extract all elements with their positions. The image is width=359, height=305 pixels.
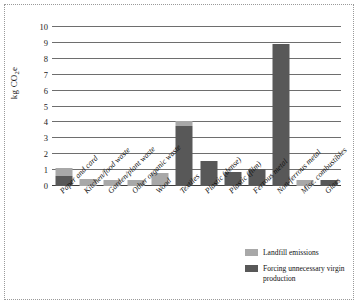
y-axis-tick-label: 2 — [8, 150, 48, 159]
y-axis-tick-label: 7 — [8, 71, 48, 80]
legend-label: Landfill emissions — [263, 248, 319, 257]
bar-segment-landfill-emissions — [56, 168, 73, 176]
legend-swatch-light — [245, 249, 258, 256]
y-axis-tick-label: 8 — [8, 55, 48, 64]
bar-slot — [52, 27, 76, 186]
y-axis-tick-label: 1 — [8, 166, 48, 175]
chart-legend: Landfill emissionsForcing unnecessary vi… — [245, 248, 353, 290]
bar-slot — [197, 27, 221, 186]
legend-label: Forcing unnecessary virgin production — [263, 264, 353, 283]
y-axis-tick-label: 10 — [8, 23, 48, 32]
bar-slot — [172, 27, 196, 186]
y-axis-tick-label: 4 — [8, 118, 48, 127]
chart-screenshot: kg CO2e 012345678910 Paper and cardKitch… — [0, 0, 359, 305]
y-axis-tick-label: 3 — [8, 134, 48, 143]
y-axis-tick-label: 0 — [8, 182, 48, 191]
x-axis-category-labels: Paper and cardKitchen/food wasteGarden/p… — [52, 186, 341, 246]
y-axis-tick-label: 5 — [8, 103, 48, 112]
y-axis-tick-label: 6 — [8, 87, 48, 96]
y-axis-tick-label: 9 — [8, 39, 48, 48]
legend-item: Forcing unnecessary virgin production — [245, 264, 353, 283]
legend-swatch-dark — [245, 265, 258, 272]
legend-item: Landfill emissions — [245, 248, 353, 257]
y-axis-tick-labels: 012345678910 — [0, 27, 48, 186]
